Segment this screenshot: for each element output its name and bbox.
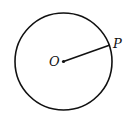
point-label: P xyxy=(112,36,122,51)
circle-diagram: O P xyxy=(0,0,131,119)
center-point xyxy=(62,60,65,63)
radius-segment-op xyxy=(64,45,111,62)
center-label: O xyxy=(49,54,60,69)
